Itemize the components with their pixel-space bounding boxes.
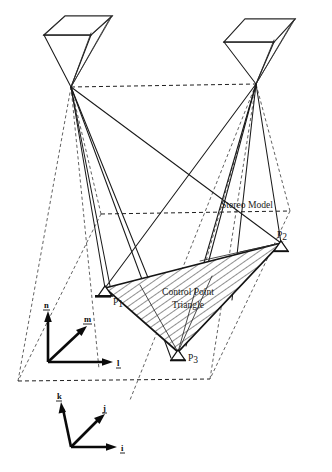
control-point-triangle-label-line1: Control Point xyxy=(162,286,214,297)
stereo-model-label: Stereo Model xyxy=(221,199,273,210)
right-camera xyxy=(224,19,295,84)
right-cone-edge-5 xyxy=(256,40,274,84)
ground-axis-i-label: i xyxy=(121,443,124,453)
p1-base-bar xyxy=(95,295,111,298)
ground-axis-k-label: k xyxy=(57,391,62,401)
model-axis-l-arrowhead xyxy=(102,358,113,366)
control-point-triangle-label-line2: Triangle xyxy=(172,299,204,310)
stereo-model-bottom-left-rise xyxy=(18,87,71,381)
stereo-model-edge-left xyxy=(18,214,101,381)
right-cone-edge-1 xyxy=(224,42,256,84)
ray-left-to-p1 xyxy=(71,87,105,288)
model-axis-n-label: n xyxy=(44,300,49,310)
left-cone-edge-1 xyxy=(44,35,71,87)
model-coordinate-axes: n m l xyxy=(43,300,121,368)
air-base-line xyxy=(71,84,256,87)
ray-left-extra-2 xyxy=(71,87,112,296)
right-camera-negative-plane xyxy=(224,19,295,42)
model-axis-m-label: m xyxy=(84,314,92,324)
diagram-canvas: P1 P2 P3 Stereo Model Control Point Tria… xyxy=(0,0,332,472)
ground-axis-i-arrowhead xyxy=(106,443,117,451)
model-axis-m-shaft xyxy=(48,331,81,362)
ground-axis-k-shaft xyxy=(63,409,71,447)
ground-axis-k-arrowhead xyxy=(59,402,66,414)
p3-marker-icon xyxy=(171,350,185,360)
stereo-model-top-front xyxy=(101,211,290,214)
model-axis-n-arrowhead xyxy=(44,311,52,322)
p3-label: P3 xyxy=(188,353,198,365)
left-cone-edge-5 xyxy=(71,33,91,87)
ground-axis-j-shaft xyxy=(71,419,99,447)
stereo-model-figure: P1 P2 P3 Stereo Model Control Point Tria… xyxy=(0,0,332,472)
left-camera xyxy=(44,16,112,87)
ground-axis-j-label: j xyxy=(102,403,106,413)
p1-label: P1 xyxy=(113,297,123,309)
model-axis-l-label: l xyxy=(117,358,120,368)
ground-coordinate-axes: k j i xyxy=(56,391,125,453)
stereo-model-bottom-front xyxy=(18,379,210,381)
